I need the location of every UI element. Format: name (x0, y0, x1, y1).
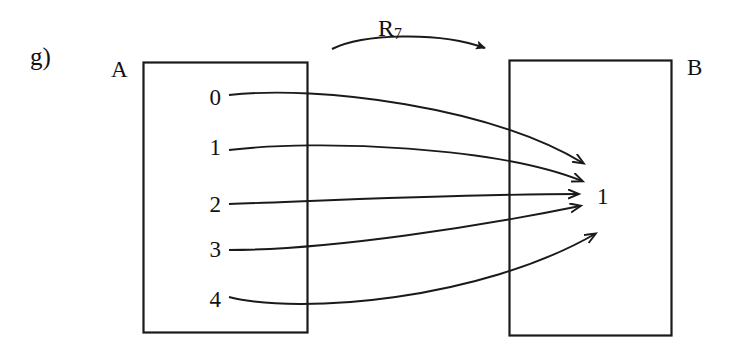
set-a-label: A (111, 58, 128, 81)
relation-label: R7 (378, 16, 402, 42)
set-b-element-1: 1 (597, 185, 609, 208)
set-a-element-3: 3 (199, 238, 221, 261)
part-label: g) (30, 44, 51, 69)
set-a-element-4: 4 (199, 288, 221, 311)
relation-label-subscript: 7 (394, 25, 402, 42)
set-a-element-2: 2 (199, 193, 221, 216)
mapping-curve-3-to-1 (229, 206, 580, 250)
relation-arc (332, 36, 485, 49)
set-a-element-1: 1 (199, 136, 221, 159)
mapping-curve-2-to-1 (229, 194, 578, 204)
set-a-element-0: 0 (199, 86, 221, 109)
set-b-box (510, 61, 672, 336)
mapping-curve-4-to-1 (229, 234, 595, 304)
mapping-curve-1-to-1 (229, 145, 582, 181)
mapping-curve-0-to-1 (229, 93, 583, 163)
figure-canvas: g) A B 0 1 2 3 4 1 R7 (0, 0, 732, 348)
set-a-box (144, 63, 308, 333)
set-b-label: B (687, 56, 702, 79)
relation-diagram-svg (0, 0, 732, 348)
relation-label-base: R (378, 15, 394, 41)
